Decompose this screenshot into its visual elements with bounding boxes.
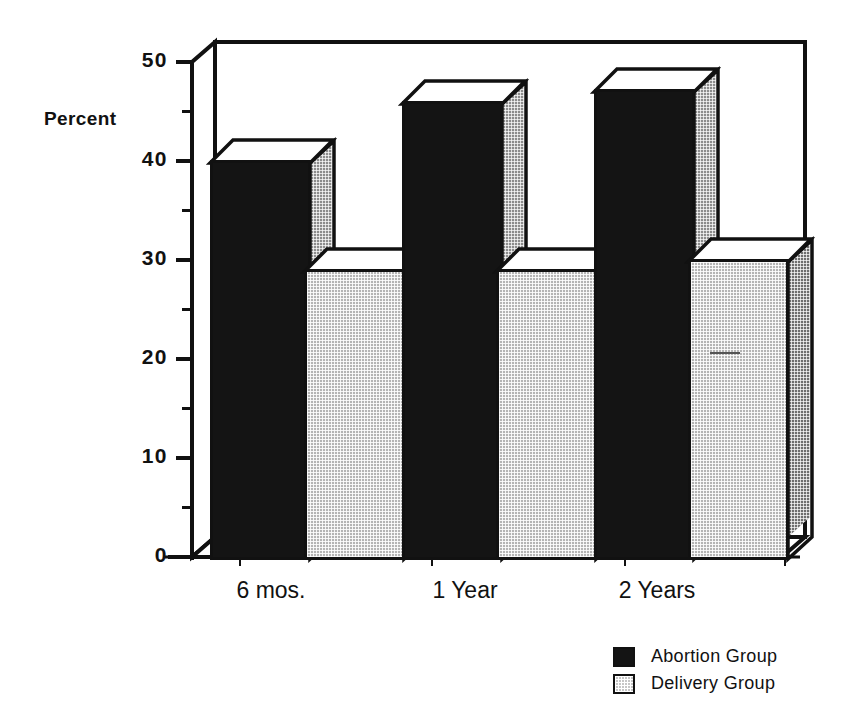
legend: Abortion Group Delivery Group bbox=[613, 643, 777, 697]
bar-side-outline bbox=[784, 232, 820, 546]
legend-swatch-icon bbox=[613, 674, 635, 694]
legend-label: Abortion Group bbox=[651, 646, 777, 667]
y-axis-tick-major bbox=[176, 60, 191, 64]
y-axis-label-10: 10 bbox=[96, 444, 168, 468]
category-label-1-year: 1 Year bbox=[382, 577, 548, 604]
bar-front-face bbox=[594, 89, 695, 560]
legend-swatch-icon bbox=[613, 647, 635, 667]
category-label-6-mos: 6 mos. bbox=[188, 577, 354, 604]
legend-item-delivery-group[interactable]: Delivery Group bbox=[613, 670, 777, 697]
bar-front-face bbox=[688, 259, 789, 560]
scan-artifact bbox=[710, 352, 740, 354]
y-axis-tick-major bbox=[176, 357, 191, 361]
y-axis-label-20: 20 bbox=[96, 345, 168, 369]
chart-figure: Percent 50 40 30 20 10 0 bbox=[0, 0, 841, 721]
y-axis-tick-minor bbox=[182, 209, 191, 212]
y-axis-tick-major bbox=[176, 159, 191, 163]
category-label-2-years: 2 Years bbox=[574, 577, 740, 604]
legend-label: Delivery Group bbox=[651, 673, 775, 694]
legend-item-abortion-group[interactable]: Abortion Group bbox=[613, 643, 777, 670]
bar-front-face bbox=[210, 160, 311, 560]
y-axis-tick-major bbox=[168, 555, 192, 559]
y-axis-tick-major bbox=[176, 258, 191, 262]
bar-front-face bbox=[304, 269, 405, 560]
y-axis-label-0: 0 bbox=[96, 543, 168, 567]
y-axis-tick-minor bbox=[182, 110, 191, 113]
bar-front-face bbox=[402, 101, 503, 560]
y-axis-tick-minor bbox=[182, 407, 191, 410]
y-axis-label-40: 40 bbox=[96, 147, 168, 171]
y-axis-tick-minor bbox=[182, 308, 191, 311]
y-axis-tick-major bbox=[176, 456, 191, 460]
bar-front-face bbox=[496, 269, 597, 560]
y-axis-label-50: 50 bbox=[96, 48, 168, 72]
y-axis-tick-minor bbox=[182, 506, 191, 509]
y-axis-label-30: 30 bbox=[96, 246, 168, 270]
